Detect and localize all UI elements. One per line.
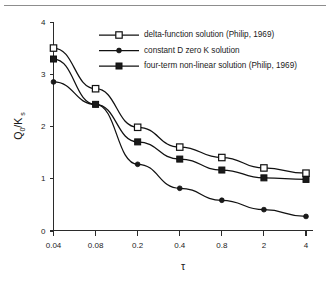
data-point-1-5 <box>262 207 267 212</box>
legend-marker-open-square <box>116 32 122 38</box>
line-chart: 01234 0.040.080.20.40.824 Q0/Ks τ delta-… <box>0 0 330 281</box>
legend-label-2: four-term non-linear solution (Philip, 1… <box>144 61 297 70</box>
data-point-0-5 <box>261 165 267 171</box>
data-point-1-6 <box>304 214 309 219</box>
legend-marker-filled-dot <box>117 48 122 53</box>
x-tick-label-2: 2 <box>262 241 267 250</box>
data-point-2-2 <box>135 139 141 145</box>
data-point-1-4 <box>219 198 224 203</box>
legend-item-1[interactable]: constant D zero K solution <box>99 46 240 55</box>
data-point-2-3 <box>177 156 183 162</box>
chart-legend: delta-function solution (Philip, 1969)co… <box>99 30 297 70</box>
chart-figure: 01234 0.040.080.20.40.824 Q0/Ks τ delta-… <box>0 0 330 281</box>
data-point-0-6 <box>303 170 309 176</box>
data-point-0-3 <box>177 144 183 150</box>
x-tick-label-0.4: 0.4 <box>174 241 186 250</box>
y-axis-title-main: Q <box>12 132 24 140</box>
legend-item-0[interactable]: delta-function solution (Philip, 1969) <box>99 30 274 39</box>
x-axis-title: τ <box>181 260 186 272</box>
data-point-2-0 <box>51 56 57 62</box>
y-tick-label-4: 4 <box>41 18 46 27</box>
data-point-0-2 <box>134 124 140 130</box>
y-axis-title-mid: /K <box>12 118 24 128</box>
x-axis-ticks: 0.040.080.20.40.824 <box>46 231 309 250</box>
legend-marker-filled-square <box>116 63 122 69</box>
data-point-2-6 <box>303 176 309 182</box>
data-point-1-2 <box>135 162 140 167</box>
data-point-2-5 <box>261 175 267 181</box>
y-tick-label-2: 2 <box>41 122 46 131</box>
legend-label-0: delta-function solution (Philip, 1969) <box>144 30 274 39</box>
y-axis-title-sub-s: s <box>19 112 26 116</box>
data-point-1-3 <box>177 186 182 191</box>
y-tick-label-0: 0 <box>41 227 46 236</box>
x-tick-label-0.2: 0.2 <box>132 241 144 250</box>
data-point-2-4 <box>219 167 225 173</box>
data-point-2-1 <box>93 101 99 107</box>
data-series-group <box>50 45 309 219</box>
y-tick-label-1: 1 <box>41 174 46 183</box>
y-axis-title: Q0/Ks <box>12 112 26 140</box>
x-tick-label-0.8: 0.8 <box>216 241 228 250</box>
legend-label-1: constant D zero K solution <box>144 46 240 55</box>
svg-text:Q0/Ks: Q0/Ks <box>12 112 26 140</box>
y-tick-label-3: 3 <box>41 70 46 79</box>
x-tick-label-0.04: 0.04 <box>46 241 62 250</box>
x-tick-label-0.08: 0.08 <box>88 241 104 250</box>
data-point-0-0 <box>50 45 56 51</box>
data-point-0-1 <box>92 86 98 92</box>
legend-item-2[interactable]: four-term non-linear solution (Philip, 1… <box>99 61 297 70</box>
x-tick-label-4: 4 <box>304 241 309 250</box>
data-point-0-4 <box>219 154 225 160</box>
data-point-1-0 <box>51 80 56 85</box>
series-2 <box>51 56 310 182</box>
